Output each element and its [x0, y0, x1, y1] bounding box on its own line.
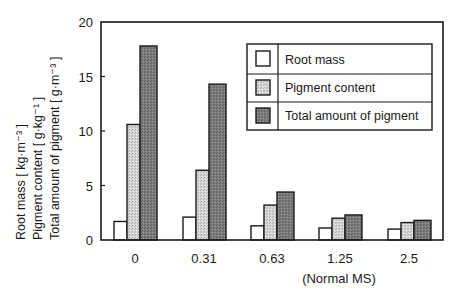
- legend-label-pigment-content: Pigment content: [285, 81, 376, 95]
- x-tick-0.63: 0.63: [259, 251, 284, 266]
- bar-root-mass-0.63: [251, 226, 264, 240]
- legend-label-total-pigment: Total amount of pigment: [285, 109, 419, 123]
- x-tick-0.31: 0.31: [191, 251, 216, 266]
- bar-root-mass-0: [114, 221, 127, 240]
- bar-root-mass-1.25: [319, 228, 332, 240]
- y-tick-20: 20: [79, 15, 93, 30]
- y-tick-5: 5: [86, 179, 93, 194]
- legend-label-root-mass: Root mass: [285, 53, 345, 67]
- bar-pigment-content-0.63: [264, 205, 277, 240]
- bar-pigment-content-0.31: [196, 170, 209, 240]
- x-tick-1.25: 1.25: [327, 251, 352, 266]
- x-tick-2.5: 2.5: [400, 251, 418, 266]
- bar-total-pigment-0.31: [209, 84, 226, 240]
- bar-total-pigment-0: [140, 46, 157, 240]
- y-tick-10: 10: [79, 124, 93, 139]
- x-tick-labels: 0 0.31 0.63 1.25 2.5 (Normal MS): [131, 251, 418, 286]
- bar-root-mass-0.31: [183, 217, 196, 240]
- legend-swatch-root-mass: [256, 51, 270, 66]
- bar-total-pigment-1.25: [345, 215, 362, 240]
- legend-swatch-pigment-content: [256, 80, 270, 95]
- bar-pigment-content-2.5: [401, 223, 414, 240]
- legend-item-root-mass: Root mass: [256, 51, 345, 67]
- y-axis-label: Root mass [ kg·m⁻³ ] Pigment content [ g…: [14, 57, 62, 240]
- legend-swatch-total-pigment: [256, 108, 270, 123]
- bar-root-mass-2.5: [388, 229, 401, 240]
- y-label-total-pigment: Total amount of pigment [ g·m⁻³ ]: [48, 57, 62, 240]
- y-tick-15: 15: [79, 70, 93, 85]
- bar-pigment-content-0: [127, 124, 140, 240]
- bar-total-pigment-0.63: [277, 192, 294, 240]
- bar-total-pigment-2.5: [414, 220, 431, 240]
- bar-pigment-content-1.25: [332, 218, 345, 240]
- x-annotation-normal-ms: (Normal MS): [302, 271, 376, 286]
- x-tick-0: 0: [131, 251, 138, 266]
- legend: Root mass Pigment content Total amount o…: [247, 44, 432, 130]
- y-tick-labels: 0 5 10 15 20: [79, 15, 93, 248]
- bar-chart: Root mass [ kg·m⁻³ ] Pigment content [ g…: [0, 0, 456, 299]
- y-label-root-mass: Root mass [ kg·m⁻³ ]: [14, 124, 28, 240]
- y-tick-0: 0: [86, 233, 93, 248]
- y-label-pigment-content: Pigment content [ g·kg⁻¹ ]: [31, 97, 45, 240]
